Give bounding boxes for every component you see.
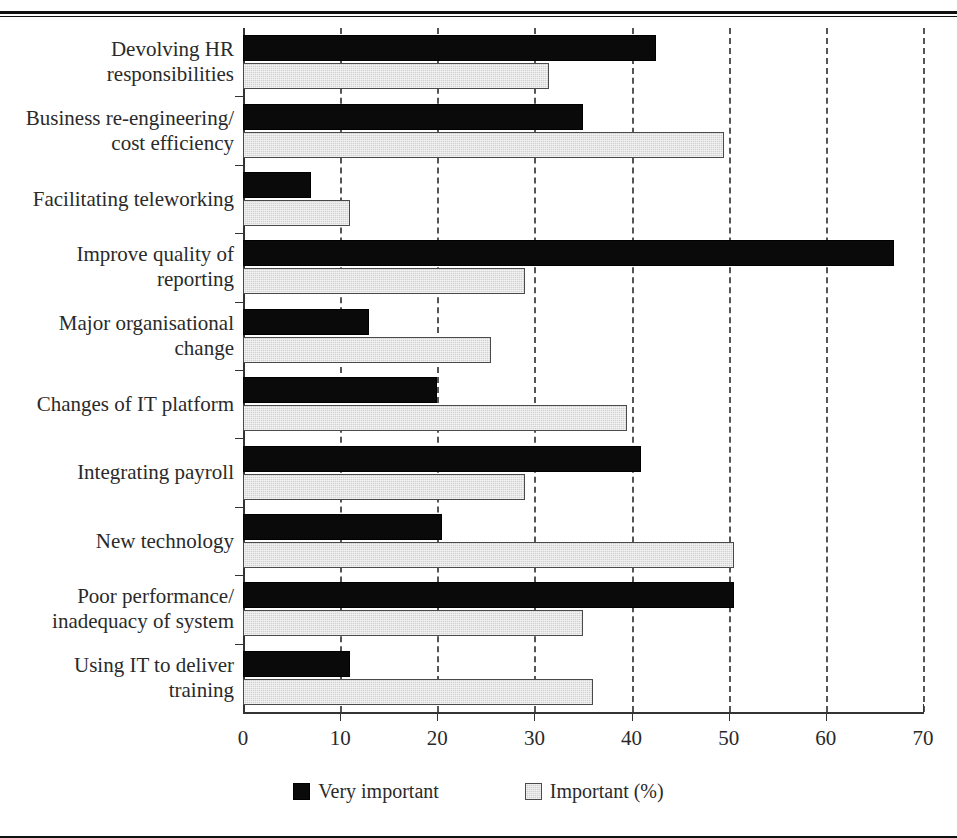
category-label-line: Improve quality of bbox=[8, 242, 234, 267]
category-label-line: New technology bbox=[8, 529, 234, 554]
legend-item-very-important: Very important bbox=[293, 780, 439, 803]
x-tick-60 bbox=[826, 712, 827, 721]
top-divider-rule bbox=[0, 11, 957, 14]
category-label-line: Facilitating teleworking bbox=[8, 187, 234, 212]
x-tick-label-10: 10 bbox=[330, 726, 351, 751]
bar-group bbox=[243, 165, 923, 233]
x-tick-40 bbox=[632, 712, 633, 721]
category-label-line: inadequacy of system bbox=[8, 609, 234, 634]
bar-important bbox=[243, 679, 593, 705]
category-label-line: Devolving HR bbox=[8, 37, 234, 62]
category-label: Integrating payroll bbox=[8, 460, 234, 485]
category-label: New technology bbox=[8, 529, 234, 554]
bar-very-important bbox=[243, 104, 583, 130]
legend-swatch-very-important bbox=[293, 783, 310, 800]
category-label-line: reporting bbox=[8, 267, 234, 292]
bar-group bbox=[243, 507, 923, 575]
bar-very-important bbox=[243, 514, 442, 540]
x-tick-20 bbox=[437, 712, 438, 721]
bar-very-important bbox=[243, 309, 369, 335]
bar-very-important bbox=[243, 377, 437, 403]
category-label: Changes of IT platform bbox=[8, 392, 234, 417]
category-label-line: cost efficiency bbox=[8, 131, 234, 156]
category-label-line: Integrating payroll bbox=[8, 460, 234, 485]
legend-label-important: Important (%) bbox=[550, 780, 664, 803]
top-divider-rule-thin bbox=[0, 16, 957, 17]
chart-legend: Very important Important (%) bbox=[0, 780, 957, 803]
category-label: Using IT to delivertraining bbox=[8, 653, 234, 703]
category-label: Major organisationalchange bbox=[8, 311, 234, 361]
bar-very-important bbox=[243, 582, 734, 608]
category-label-line: training bbox=[8, 678, 234, 703]
bar-group bbox=[243, 575, 923, 643]
bar-important bbox=[243, 474, 525, 500]
legend-item-important: Important (%) bbox=[525, 780, 664, 803]
bar-important bbox=[243, 337, 491, 363]
bar-important bbox=[243, 200, 350, 226]
x-tick-label-20: 20 bbox=[427, 726, 448, 751]
x-tick-label-50: 50 bbox=[718, 726, 739, 751]
bar-group bbox=[243, 370, 923, 438]
figure-chart: Devolving HRresponsibilitiesBusiness re-… bbox=[0, 0, 957, 838]
bar-group bbox=[243, 302, 923, 370]
bar-group bbox=[243, 28, 923, 96]
legend-swatch-important bbox=[525, 783, 542, 800]
bar-very-important bbox=[243, 172, 311, 198]
bar-very-important bbox=[243, 651, 350, 677]
category-label-line: Business re-engineering/ bbox=[8, 106, 234, 131]
plot-area bbox=[243, 28, 923, 712]
bar-group bbox=[243, 438, 923, 506]
bar-important bbox=[243, 542, 734, 568]
bar-important bbox=[243, 63, 549, 89]
bar-group bbox=[243, 96, 923, 164]
category-label-line: Poor performance/ bbox=[8, 584, 234, 609]
category-label-line: responsibilities bbox=[8, 62, 234, 87]
category-label-line: change bbox=[8, 336, 234, 361]
x-tick-label-60: 60 bbox=[815, 726, 836, 751]
category-label: Poor performance/inadequacy of system bbox=[8, 584, 234, 634]
category-label-line: Changes of IT platform bbox=[8, 392, 234, 417]
x-tick-50 bbox=[729, 712, 730, 721]
bar-important bbox=[243, 610, 583, 636]
x-tick-70 bbox=[923, 704, 924, 714]
x-tick-30 bbox=[534, 712, 535, 721]
bar-very-important bbox=[243, 446, 641, 472]
category-label-line: Major organisational bbox=[8, 311, 234, 336]
bar-group bbox=[243, 233, 923, 301]
category-label-line: Using IT to deliver bbox=[8, 653, 234, 678]
category-label: Improve quality ofreporting bbox=[8, 242, 234, 292]
bar-very-important bbox=[243, 35, 656, 61]
category-axis-labels: Devolving HRresponsibilitiesBusiness re-… bbox=[8, 28, 236, 712]
category-label: Facilitating teleworking bbox=[8, 187, 234, 212]
bar-group bbox=[243, 644, 923, 712]
x-axis-line bbox=[243, 712, 924, 714]
bar-important bbox=[243, 132, 724, 158]
bar-important bbox=[243, 405, 627, 431]
bar-very-important bbox=[243, 240, 894, 266]
x-tick-label-70: 70 bbox=[913, 726, 934, 751]
x-tick-label-30: 30 bbox=[524, 726, 545, 751]
x-tick-label-0: 0 bbox=[238, 726, 249, 751]
bar-important bbox=[243, 268, 525, 294]
x-tick-label-40: 40 bbox=[621, 726, 642, 751]
category-label: Devolving HRresponsibilities bbox=[8, 37, 234, 87]
x-axis-tick-labels: 010203040506070 bbox=[0, 726, 957, 758]
legend-label-very-important: Very important bbox=[318, 780, 439, 803]
x-tick-10 bbox=[340, 712, 341, 721]
gridline-70 bbox=[923, 28, 925, 712]
category-label: Business re-engineering/cost efficiency bbox=[8, 106, 234, 156]
